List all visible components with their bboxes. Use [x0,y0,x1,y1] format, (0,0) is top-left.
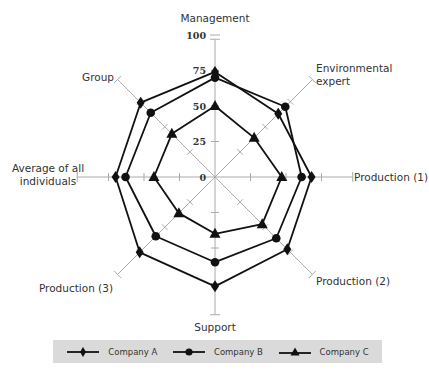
circle-marker-icon [172,346,206,358]
circle-marker-icon [281,102,290,111]
category-label: Management [180,12,249,24]
circle-marker-icon [151,232,160,241]
category-label: Production (3) [39,282,113,294]
diamond-marker-icon [112,171,120,183]
tick-label: 100 [186,30,206,41]
data-series [112,66,316,292]
tick-label: 0 [199,172,206,183]
category-label: Production (1) [354,171,428,183]
triangle-marker-icon [210,100,221,110]
radial-tick-labels: 0255075100 [186,30,206,183]
radar-chart: 0255075100 ManagementEnvironmentalexpert… [0,0,429,375]
diamond-marker-icon [136,246,144,258]
circle-marker-icon [146,108,155,117]
tick-label: 75 [193,65,206,76]
legend-item-company-b[interactable]: Company B [172,346,263,358]
tick-label: 25 [193,136,206,147]
legend-item-company-a[interactable]: Company A [66,346,157,358]
legend: Company A Company B Company C [53,340,382,363]
diamond-marker-icon [137,97,145,109]
category-label: Support [194,321,236,333]
circle-marker-icon [211,258,220,267]
diamond-marker-icon [283,243,291,255]
triangle-marker-icon [278,346,312,358]
circle-marker-icon [272,234,281,243]
circle-marker-icon [297,173,306,182]
legend-label: Company C [320,347,369,357]
circle-marker-icon [211,73,220,82]
category-label: Group [82,71,114,83]
triangle-marker-icon [148,171,159,181]
category-label: Production (2) [316,275,390,287]
series-company-c [154,106,282,234]
diamond-marker-icon [66,346,100,358]
tick-label: 50 [193,101,207,112]
legend-label: Company B [214,347,263,357]
category-label: Environmentalexpert [316,62,392,87]
legend-item-company-c[interactable]: Company C [278,346,369,358]
diamond-marker-icon [211,280,219,292]
circle-marker-icon [121,173,130,182]
legend-label: Company A [108,347,157,357]
category-label: Average of allindividuals [12,162,84,187]
